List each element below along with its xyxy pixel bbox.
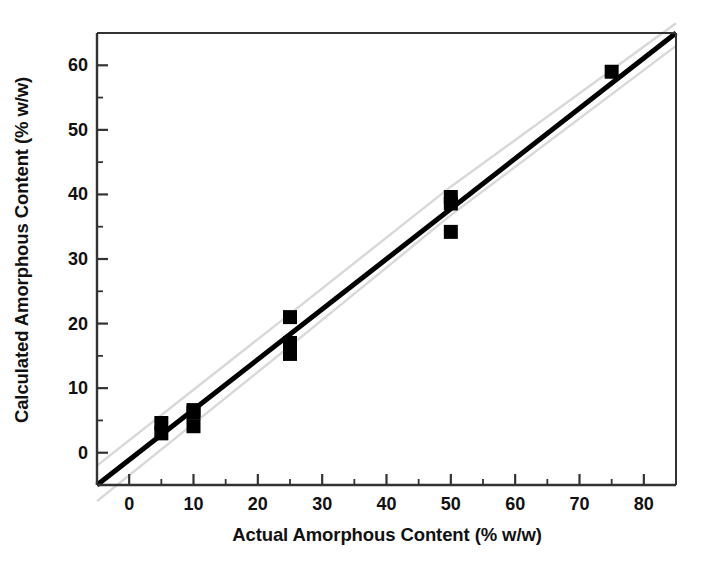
x-tick-label: 60 [505, 494, 525, 515]
y-tick-label: 40 [44, 184, 88, 205]
x-tick-label: 50 [441, 494, 461, 515]
x-tick-label: 40 [376, 494, 396, 515]
chart-figure: Calculated Amorphous Content (% w/w) Act… [0, 0, 709, 567]
data-point-marker [283, 310, 297, 324]
x-tick-label: 10 [183, 494, 203, 515]
x-tick-label: 30 [312, 494, 332, 515]
plot-area [0, 0, 709, 567]
y-tick-label: 50 [44, 119, 88, 140]
data-point-marker [283, 347, 297, 361]
data-point-marker [444, 196, 458, 210]
regression-line [97, 33, 676, 485]
x-tick-label: 20 [248, 494, 268, 515]
data-point-marker [605, 65, 619, 79]
data-point-marker [187, 419, 201, 433]
y-tick-label: 60 [44, 55, 88, 76]
data-point-marker [187, 406, 201, 420]
x-tick-label: 80 [634, 494, 654, 515]
confidence-bands-group [97, 23, 676, 501]
y-tick-label: 0 [44, 442, 88, 463]
data-point-marker [444, 225, 458, 239]
data-point-marker [154, 426, 168, 440]
y-tick-label: 30 [44, 249, 88, 270]
confidence-band-lower [97, 46, 676, 501]
regression-line-group [97, 33, 676, 485]
x-tick-label: 0 [124, 494, 134, 515]
y-tick-label: 10 [44, 378, 88, 399]
y-tick-label: 20 [44, 313, 88, 334]
x-tick-label: 70 [569, 494, 589, 515]
confidence-band-upper [97, 23, 676, 465]
